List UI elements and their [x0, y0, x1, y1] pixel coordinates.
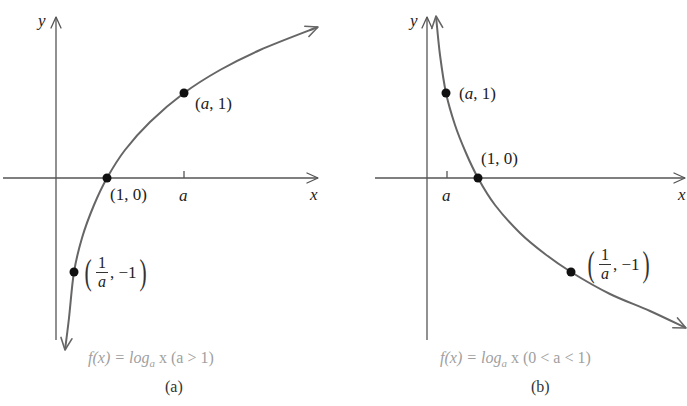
denominator: a	[599, 264, 611, 282]
y-value: , −1	[110, 264, 137, 281]
paren-open: (	[587, 246, 594, 282]
point-label-a-1: (a, 1)	[459, 85, 496, 102]
point-marker	[180, 89, 189, 98]
point-label-a-1: (a, 1)	[195, 95, 232, 112]
panel-b	[375, 16, 686, 340]
point-marker	[103, 174, 112, 183]
paren-close: )	[642, 246, 649, 282]
log-graphs-canvas	[0, 0, 687, 406]
panel-a	[3, 17, 318, 350]
caption-a: f(x) = loga x (a > 1)	[88, 350, 214, 369]
var-a: a	[465, 84, 474, 103]
point-label-1-0: (1, 0)	[110, 186, 147, 203]
panel-tag-a: (a)	[165, 379, 183, 395]
x-axis-label: x	[310, 186, 318, 203]
caption-suffix: x (0 < a < 1)	[507, 349, 591, 366]
point-label-1-0: (1, 0)	[481, 150, 518, 167]
y-value: , −1	[613, 256, 640, 273]
point-label-inv-a-neg1: ( 1 a , −1 )	[585, 246, 652, 282]
fraction-1-over-a: 1 a	[599, 247, 611, 282]
key-points	[442, 89, 576, 277]
suffix: , 1)	[473, 84, 496, 103]
point-marker	[442, 89, 451, 98]
point-marker	[70, 268, 79, 277]
panel-tag-b: (b)	[531, 379, 550, 395]
paren-close: )	[139, 254, 146, 290]
caption-prefix: f(x) = log	[88, 349, 149, 366]
suffix: , 1)	[209, 94, 232, 113]
paren-open: (	[84, 254, 91, 290]
point-label-inv-a-neg1: ( 1 a , −1 )	[82, 254, 149, 290]
fraction-1-over-a: 1 a	[96, 255, 108, 290]
var-a: a	[201, 94, 210, 113]
caption-prefix: f(x) = log	[440, 349, 501, 366]
x-tick-label-a: a	[442, 187, 451, 204]
x-axis-label: x	[678, 186, 686, 203]
numerator: 1	[96, 255, 108, 272]
caption-suffix: x (a > 1)	[155, 349, 214, 366]
denominator: a	[96, 272, 108, 290]
point-marker	[567, 268, 576, 277]
y-axis-label: y	[410, 12, 418, 29]
key-points	[70, 89, 189, 277]
caption-b: f(x) = loga x (0 < a < 1)	[440, 350, 591, 369]
y-axis-label: y	[38, 12, 46, 29]
x-tick-label-a: a	[179, 187, 188, 204]
point-marker	[474, 174, 483, 183]
log-curve-increasing	[65, 27, 318, 350]
numerator: 1	[599, 247, 611, 264]
